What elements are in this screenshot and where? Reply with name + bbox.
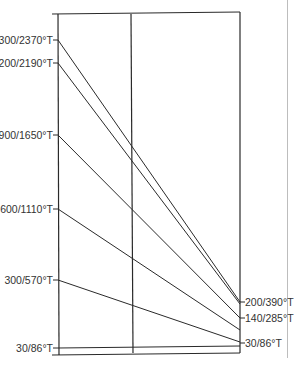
axis-labels: 300/2370°T1200/2190°T900/1650°T600/1110°… <box>0 34 294 354</box>
middle-axis-line <box>131 14 133 353</box>
top-border-line <box>52 12 240 14</box>
left-axis-label: 900/1650°T <box>0 129 54 141</box>
series-line <box>58 135 240 318</box>
ticks <box>53 40 245 348</box>
left-axis-line <box>58 14 59 355</box>
right-axis-label: 140/285°T <box>245 312 294 324</box>
bottom-border-line <box>52 353 240 355</box>
series-line <box>58 40 240 302</box>
nomogram-chart: 300/2370°T1200/2190°T900/1650°T600/1110°… <box>0 0 305 365</box>
left-axis-label: 30/86°T <box>16 342 53 354</box>
left-axis-label: 1200/2190°T <box>0 57 54 69</box>
left-axis-label: 300/570°T <box>4 274 53 286</box>
series-line <box>58 63 240 304</box>
series-line <box>58 280 240 342</box>
left-axis-label: 600/1110°T <box>0 203 53 215</box>
right-axis-label: 200/390°T <box>245 296 294 308</box>
left-axis-label: 300/2370°T <box>0 34 54 46</box>
series-line <box>58 346 240 348</box>
series-lines <box>58 40 240 348</box>
right-axis-label: 30/86°T <box>245 337 282 349</box>
axes <box>52 12 240 355</box>
